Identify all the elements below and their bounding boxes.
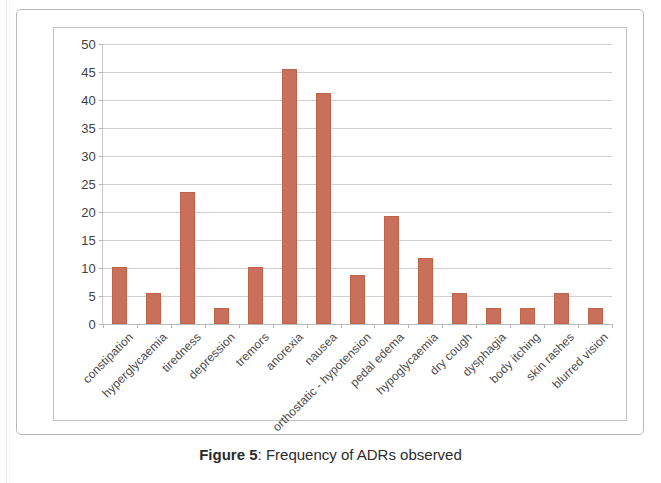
plot-area: 05101520253035404550 — [103, 44, 612, 324]
y-axis-tick-label: 30 — [81, 149, 96, 164]
y-tick-mark — [99, 184, 103, 185]
scan-artifact-stripe — [6, 0, 7, 483]
gridline — [103, 156, 612, 157]
y-tick-mark — [99, 44, 103, 45]
y-tick-mark — [99, 128, 103, 129]
y-axis-tick-label: 20 — [81, 205, 96, 220]
bar — [350, 275, 365, 324]
y-axis-tick-label: 0 — [89, 317, 96, 332]
y-axis-tick-label: 45 — [81, 65, 96, 80]
bar — [180, 192, 195, 324]
bar — [112, 267, 127, 324]
bar — [282, 69, 297, 324]
bar — [248, 267, 263, 324]
x-axis-labels-group: constipationhyperglycaemiatirednessdepre… — [103, 326, 612, 422]
bar — [554, 293, 569, 324]
y-tick-mark — [99, 100, 103, 101]
gridline — [103, 44, 612, 45]
bar — [520, 308, 535, 324]
gridline — [103, 184, 612, 185]
chart-plot-container: 05101520253035404550 constipationhypergl… — [53, 27, 627, 421]
scan-artifact-stripe — [9, 0, 10, 483]
caption-text: Frequency of ADRs observed — [266, 446, 462, 463]
bar — [384, 216, 399, 324]
gridline — [103, 128, 612, 129]
caption-separator: : — [258, 446, 262, 463]
figure-caption: Figure 5: Frequency of ADRs observed — [0, 446, 661, 463]
x-tick-mark — [612, 324, 613, 328]
y-axis-tick-label: 25 — [81, 177, 96, 192]
y-tick-mark — [99, 240, 103, 241]
y-axis-tick-label: 40 — [81, 93, 96, 108]
bar — [316, 93, 331, 324]
caption-label: Figure 5 — [199, 446, 257, 463]
y-tick-mark — [99, 296, 103, 297]
bar — [486, 308, 501, 324]
y-axis-tick-label: 10 — [81, 261, 96, 276]
y-axis-tick-label: 5 — [89, 289, 96, 304]
figure-frame: 05101520253035404550 constipationhypergl… — [16, 9, 644, 435]
bar — [146, 293, 161, 324]
y-tick-mark — [99, 72, 103, 73]
y-tick-mark — [99, 212, 103, 213]
y-axis-tick-label: 15 — [81, 233, 96, 248]
bar — [452, 293, 467, 324]
gridline — [103, 324, 612, 325]
y-axis-tick-label: 50 — [81, 37, 96, 52]
bar — [588, 308, 603, 324]
y-axis-tick-label: 35 — [81, 121, 96, 136]
y-tick-mark — [99, 156, 103, 157]
gridline — [103, 100, 612, 101]
bar — [418, 258, 433, 324]
bar — [214, 308, 229, 324]
y-tick-mark — [99, 268, 103, 269]
gridline — [103, 72, 612, 73]
